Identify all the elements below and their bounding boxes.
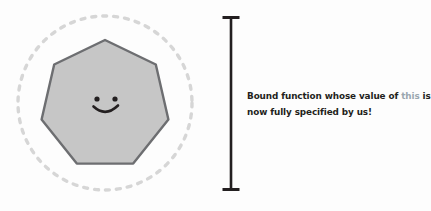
caption-line-2: now fully specified by us! [247, 104, 403, 120]
bracket-stem [230, 16, 233, 191]
figure-svg [0, 0, 209, 211]
figure-container [0, 0, 209, 211]
bracket-svg [214, 0, 248, 211]
caption-text: Bound function whose value of this is no… [247, 88, 403, 119]
caption-line-1: Bound function whose value of this is [247, 88, 403, 104]
smiley-eye-left [94, 96, 99, 101]
caption-line1-prefix: Bound function whose value of [247, 90, 401, 101]
smiley-eye-right [112, 96, 117, 101]
caption-keyword-this: this [401, 90, 419, 101]
caption-line1-suffix: is [420, 90, 431, 101]
heptagon-blob [42, 40, 169, 164]
bracket-bottom-cap [223, 188, 240, 191]
bracket-container [214, 0, 248, 211]
